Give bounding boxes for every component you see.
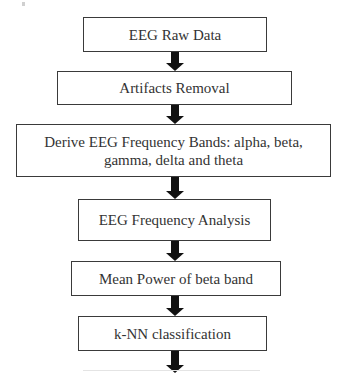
- step-label: Artifacts Removal: [119, 79, 229, 97]
- step-label: EEG Raw Data: [129, 26, 221, 44]
- step-label: k-NN classification: [114, 325, 231, 343]
- step-eeg-frequency-analysis: EEG Frequency Analysis: [78, 199, 271, 241]
- down-arrow-icon: [166, 177, 184, 199]
- step-derive-frequency-bands: Derive EEG Frequency Bands: alpha, beta,…: [16, 124, 331, 177]
- down-arrow-icon: [166, 241, 184, 261]
- step-label: Derive EEG Frequency Bands: alpha, beta,…: [39, 133, 308, 169]
- step-eeg-raw-data: EEG Raw Data: [83, 17, 267, 52]
- down-arrow-icon: [166, 296, 184, 316]
- step-label: Mean Power of beta band: [99, 270, 253, 288]
- step-knn-classification: k-NN classification: [78, 316, 267, 351]
- step-artifacts-removal: Artifacts Removal: [57, 71, 292, 105]
- step-label: EEG Frequency Analysis: [99, 211, 251, 229]
- down-arrow-icon: [166, 52, 184, 71]
- down-arrow-icon: [166, 105, 184, 124]
- stray-mark: [22, 2, 25, 6]
- step-mean-power-beta-band: Mean Power of beta band: [71, 261, 281, 296]
- crop-edge-line: [83, 370, 260, 371]
